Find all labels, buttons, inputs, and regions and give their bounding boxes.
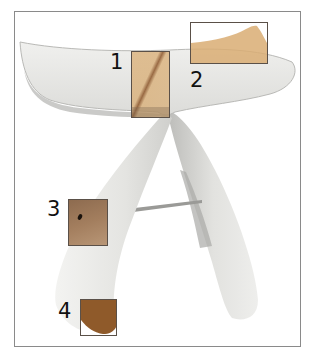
callout-box-4-fill [81,300,117,336]
callout-box-2-fill [191,23,268,64]
callout-box-3 [68,199,108,246]
callout-label-4: 4 [58,301,71,322]
callout-box-1 [131,51,170,118]
dark-spot [77,213,83,220]
callout-label-1: 1 [110,52,123,73]
callout-label-2: 2 [190,70,203,91]
callout-label-3: 3 [47,199,60,220]
callout-box-4 [80,299,117,336]
callout-box-2 [190,22,268,64]
callout-box-1-shadow [132,107,169,117]
